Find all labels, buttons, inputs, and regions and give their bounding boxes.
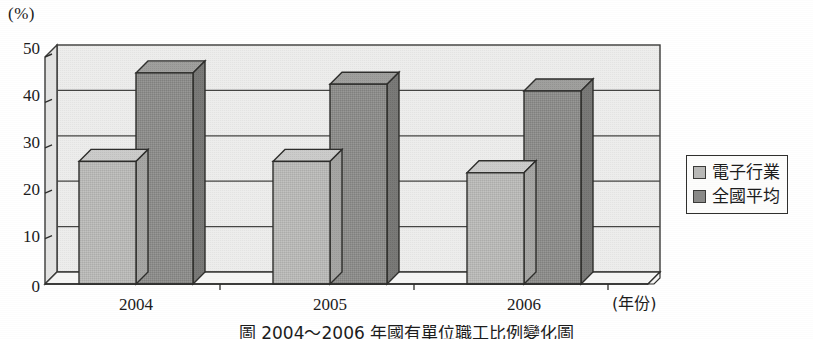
legend-swatch-dark-square <box>693 190 706 203</box>
figure-caption: 圖 2004～2006 年國有單位職工比例變化圖 <box>0 325 813 339</box>
x-tick-label-2004: 2004 <box>91 296 181 313</box>
legend-item-national-average: 全國平均 <box>693 184 780 208</box>
bar-2005-electronics-industry <box>273 149 342 284</box>
legend-label-electronics-industry: 電子行業 <box>712 164 780 181</box>
bar-2006-electronics-industry <box>467 161 536 284</box>
x-axis-unit-label: (年份) <box>612 296 656 312</box>
chart-legend: 電子行業 全國平均 <box>686 155 788 214</box>
legend-swatch-light-square <box>693 166 706 179</box>
legend-label-national-average: 全國平均 <box>712 188 780 205</box>
plot-left-wall <box>45 45 57 284</box>
chart-figure: (%) 50 40 30 20 10 0 <box>0 0 813 339</box>
x-tick-label-2005: 2005 <box>285 296 375 313</box>
legend-item-electronics-industry: 電子行業 <box>693 160 780 184</box>
x-tick-label-2006: 2006 <box>479 296 569 313</box>
bar-2004-electronics-industry <box>79 149 148 284</box>
